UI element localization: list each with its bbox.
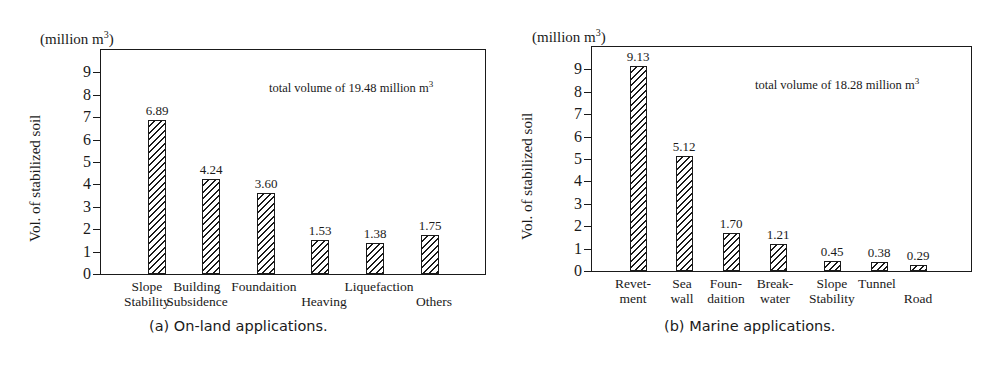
- y-unit-label: (million m3): [532, 27, 606, 46]
- y-tick-label: 7: [566, 106, 582, 122]
- y-tick-mark: [584, 92, 591, 93]
- x-category-label: Tunnel: [832, 276, 922, 291]
- y-tick-mark: [584, 114, 591, 115]
- y-tick-mark: [584, 181, 591, 182]
- total-volume-annotation: total volume of 18.28 million m3: [755, 76, 919, 93]
- bar-value-label: 5.12: [654, 140, 714, 154]
- bar: [824, 261, 841, 271]
- bar: [723, 233, 740, 271]
- y-tick-label: 5: [566, 151, 582, 167]
- bar-value-label: 0.29: [888, 249, 948, 263]
- y-tick-label: 6: [566, 129, 582, 145]
- chart-marine: (million m3) Vol. of stabilized soil 012…: [0, 0, 996, 369]
- bar: [770, 244, 787, 271]
- x-category-label: Road: [873, 291, 963, 306]
- bar: [910, 265, 927, 271]
- y-tick-label: 0: [566, 263, 582, 279]
- bar-value-label: 1.21: [748, 228, 808, 242]
- y-tick-label: 9: [566, 61, 582, 77]
- y-tick-label: 4: [566, 173, 582, 189]
- y-tick-mark: [584, 159, 591, 160]
- y-axis-label: Vol. of stabilized soil: [519, 113, 536, 240]
- y-tick-mark: [584, 69, 591, 70]
- y-tick-mark: [584, 249, 591, 250]
- y-tick-mark: [584, 137, 591, 138]
- y-tick-mark: [584, 271, 591, 272]
- bar: [871, 262, 888, 271]
- y-tick-mark: [584, 226, 591, 227]
- y-tick-mark: [584, 204, 591, 205]
- bar: [630, 66, 647, 271]
- bar: [676, 156, 693, 271]
- figure-caption: (b) Marine applications.: [664, 318, 835, 334]
- y-tick-label: 3: [566, 196, 582, 212]
- y-tick-label: 2: [566, 218, 582, 234]
- y-tick-label: 8: [566, 84, 582, 100]
- bar-value-label: 9.13: [608, 50, 668, 64]
- y-tick-label: 1: [566, 241, 582, 257]
